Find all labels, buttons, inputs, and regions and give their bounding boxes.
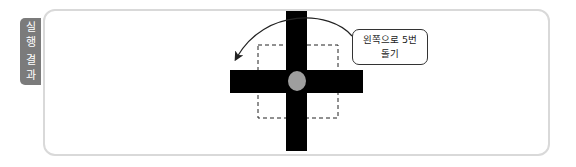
callout-line-2: 돌기	[353, 47, 427, 61]
cross-figure	[0, 0, 576, 167]
callout-line-1: 왼쪽으로 5번	[353, 33, 427, 47]
center-circle-icon	[288, 71, 306, 91]
instruction-callout: 왼쪽으로 5번 돌기	[352, 29, 428, 65]
